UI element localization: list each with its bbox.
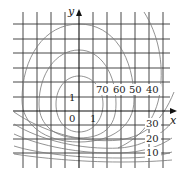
x-axis-label: x (170, 114, 177, 127)
contour-label-60: 60 (113, 84, 126, 95)
contour-50 (22, 24, 134, 142)
contour-label-70: 70 (96, 84, 109, 95)
x-tick-1: 1 (90, 113, 96, 124)
contour-label-30: 30 (146, 118, 159, 129)
contour-label-10: 10 (146, 147, 159, 158)
contour-plot: y x 1 0 1 70 60 50 40 30 20 10 (0, 0, 182, 172)
contour-label-50: 50 (129, 84, 142, 95)
y-axis-label: y (67, 5, 75, 18)
y-tick-1: 1 (69, 92, 75, 103)
origin-label: 0 (69, 113, 75, 124)
y-axis-arrow-icon (76, 9, 82, 16)
contour-label-20: 20 (146, 133, 159, 144)
contour-label-40: 40 (146, 84, 159, 95)
